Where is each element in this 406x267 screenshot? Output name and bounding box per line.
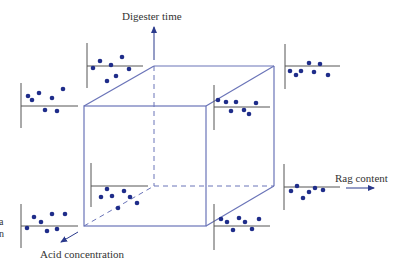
- data-point: [109, 63, 114, 68]
- data-point: [114, 74, 119, 79]
- data-point: [55, 227, 60, 232]
- data-point: [63, 212, 68, 217]
- data-point: [122, 189, 127, 194]
- acid-concentration-label: Acid concentration: [40, 248, 124, 260]
- scatter-plot-right-mid: [214, 85, 270, 130]
- data-point: [321, 188, 326, 193]
- data-point: [39, 220, 44, 225]
- data-point: [135, 201, 140, 206]
- data-point: [295, 184, 300, 189]
- data-point: [254, 101, 259, 106]
- data-point: [250, 227, 255, 232]
- data-point: [257, 217, 262, 222]
- scatter-plot-bottom-right: [214, 204, 270, 250]
- data-point: [30, 98, 35, 103]
- data-point: [301, 196, 306, 201]
- rag-content-label: Rag content: [335, 172, 388, 184]
- data-point: [243, 220, 248, 225]
- data-point: [312, 70, 317, 75]
- data-point: [313, 186, 318, 191]
- data-point: [120, 55, 125, 60]
- scatter-plot-center-low: [91, 163, 148, 210]
- scatter-plots: [21, 43, 340, 250]
- data-point: [219, 217, 224, 222]
- data-point: [288, 69, 293, 74]
- data-point: [231, 228, 236, 233]
- data-point: [105, 79, 110, 84]
- data-point: [61, 87, 66, 92]
- data-point: [234, 100, 239, 105]
- data-point: [307, 190, 312, 195]
- data-point: [26, 94, 31, 99]
- data-point: [45, 229, 50, 234]
- diagram-canvas: [0, 0, 406, 267]
- data-point: [50, 96, 55, 101]
- data-point: [224, 100, 229, 105]
- cube-front-face: [84, 106, 206, 226]
- factorial-cube-diagram: Digester time Rag content Acid concentra…: [0, 0, 406, 267]
- digester-time-label: Digester time: [122, 10, 182, 22]
- data-point: [326, 73, 331, 78]
- data-point: [55, 109, 60, 114]
- cube-top-left-depth: [84, 66, 154, 106]
- axis-arrows: [61, 27, 374, 242]
- data-point: [128, 195, 133, 200]
- data-point: [299, 69, 304, 74]
- data-point: [318, 62, 323, 67]
- data-point: [43, 108, 48, 113]
- data-point: [32, 215, 37, 220]
- data-point: [307, 61, 312, 66]
- data-point: [37, 91, 42, 96]
- data-point: [247, 112, 252, 117]
- data-point: [25, 226, 30, 231]
- data-point: [229, 109, 234, 114]
- scatter-plot-top-left: [21, 83, 78, 128]
- data-point: [237, 216, 242, 221]
- cube-visible-edges: [84, 66, 274, 226]
- data-point: [99, 195, 104, 200]
- data-point: [91, 66, 96, 71]
- scatter-plot-right-low: [284, 164, 340, 210]
- data-point: [50, 212, 55, 217]
- data-point: [289, 189, 294, 194]
- scatter-plot-bottom-left: [21, 204, 78, 248]
- data-point: [116, 206, 121, 211]
- data-point: [105, 187, 110, 192]
- data-point: [98, 59, 103, 64]
- left-edge-fragment-2: n: [0, 228, 4, 240]
- data-point: [216, 98, 221, 103]
- data-point: [294, 73, 299, 78]
- data-point: [127, 67, 132, 72]
- data-point: [225, 220, 230, 225]
- scatter-plot-top-center: [87, 43, 143, 88]
- data-point: [242, 108, 247, 113]
- left-edge-fragment-1: a: [0, 216, 3, 228]
- scatter-plot-top-right: [285, 44, 340, 89]
- acid-concentration-arrow: [61, 232, 78, 242]
- data-point: [110, 194, 115, 199]
